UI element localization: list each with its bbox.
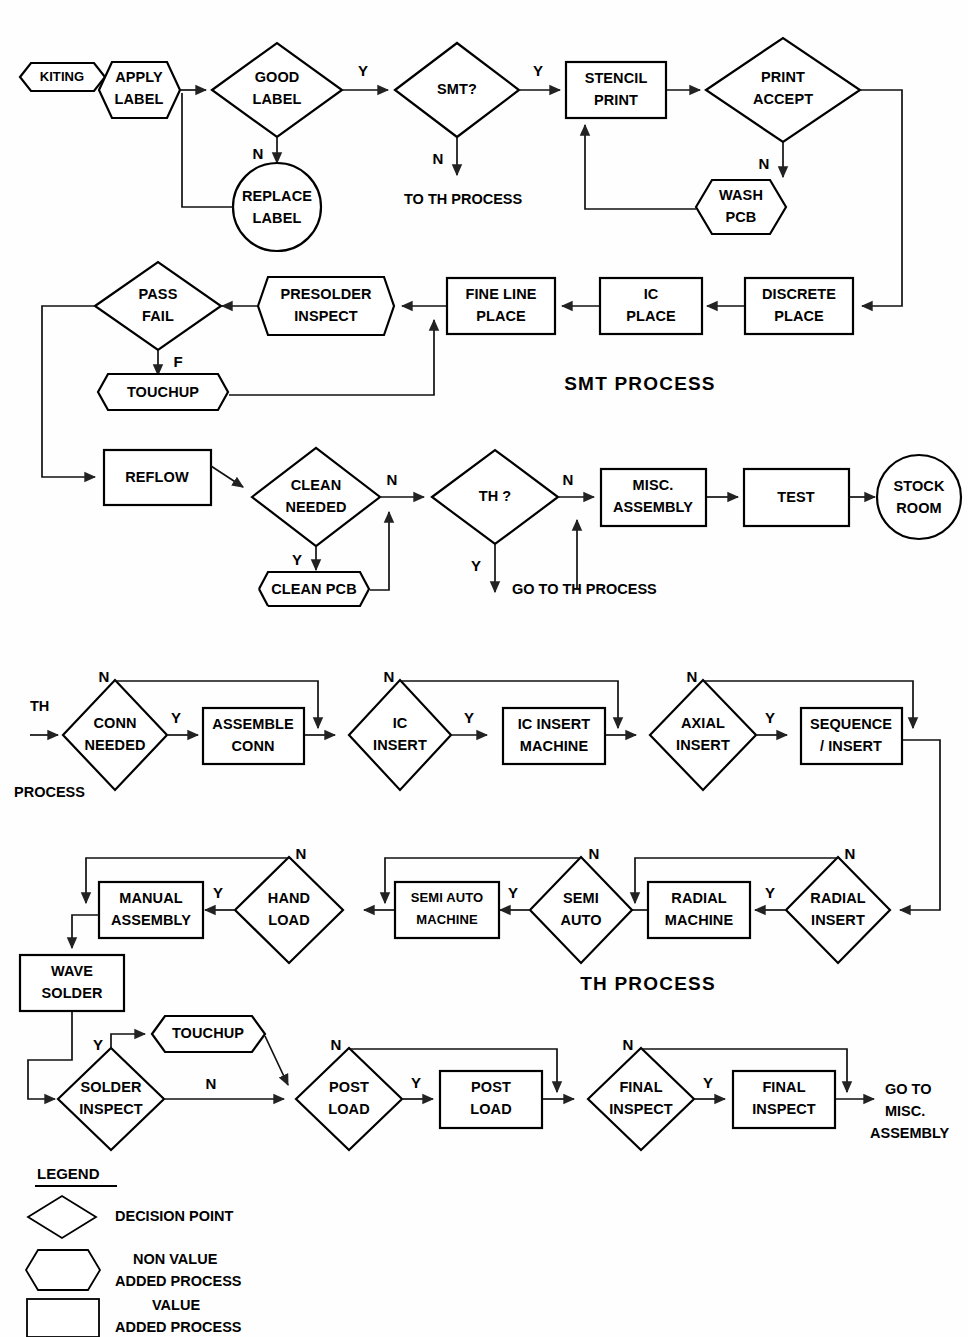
node-solder-inspect-line1: SOLDER <box>80 1079 141 1095</box>
branch-label-semi-auto-n: N <box>589 845 600 862</box>
branch-label-final-inspect-n: N <box>623 1036 634 1053</box>
node-assemble-conn-line2: CONN <box>231 738 274 754</box>
node-post-load-process: POST LOAD <box>440 1071 542 1128</box>
flowchart-canvas: KITING APPLY LABEL GOOD LABEL N REPLACE … <box>0 0 968 1337</box>
node-replace-label-line1: REPLACE <box>242 188 312 204</box>
node-final-inspect-decision-line2: INSPECT <box>609 1101 673 1117</box>
node-clean-pcb-label: CLEAN PCB <box>271 581 357 597</box>
node-wave-solder-line1: WAVE <box>51 963 93 979</box>
legend-item-0-line1: DECISION POINT <box>115 1208 234 1224</box>
branch-label-passfail-f: F <box>173 353 182 370</box>
node-post-load-decision-line2: LOAD <box>328 1101 369 1117</box>
branch-label-smt-y: Y <box>533 62 543 79</box>
node-pass-fail-line2: FAIL <box>142 308 174 324</box>
note-to-th-process: TO TH PROCESS <box>404 191 522 207</box>
branch-label-clean-needed-y: Y <box>292 551 302 568</box>
node-kiting: KITING <box>20 63 105 91</box>
node-smt-question-label: SMT? <box>437 81 477 97</box>
branch-label-smt-n: N <box>433 150 444 167</box>
node-ic-insert-machine: IC INSERT MACHINE <box>503 708 605 764</box>
branch-label-ic-insert-y: Y <box>464 709 474 726</box>
node-radial-machine-line2: MACHINE <box>665 912 734 928</box>
branch-label-radial-insert-n: N <box>845 845 856 862</box>
node-stock-room-line1: STOCK <box>894 478 945 494</box>
branch-label-final-inspect-y: Y <box>703 1074 713 1091</box>
node-stock-room-line2: ROOM <box>896 500 942 516</box>
node-ic-place-line1: IC <box>644 286 659 302</box>
node-misc-assembly-line1: MISC. <box>633 477 674 493</box>
branch-label-conn-needed-n: N <box>99 668 110 685</box>
legend-item-2-line2: ADDED PROCESS <box>115 1319 242 1335</box>
node-final-inspect-decision-line1: FINAL <box>619 1079 662 1095</box>
node-discrete-place-line2: PLACE <box>774 308 824 324</box>
th-exit-label-line1: GO TO <box>885 1081 931 1097</box>
node-post-load-process-line1: POST <box>471 1079 511 1095</box>
node-test: TEST <box>744 469 849 526</box>
branch-label-good-y: Y <box>358 62 368 79</box>
node-assemble-conn: ASSEMBLE CONN <box>203 708 304 764</box>
node-conn-needed-line2: NEEDED <box>84 737 145 753</box>
legend-item-1-line2: ADDED PROCESS <box>115 1273 242 1289</box>
node-sequence-insert-line2: / INSERT <box>820 738 882 754</box>
branch-label-post-load-n: N <box>331 1036 342 1053</box>
node-hand-load-line1: HAND <box>268 890 310 906</box>
node-solder-inspect-line2: INSPECT <box>79 1101 143 1117</box>
node-stencil-print-line1: STENCIL <box>585 70 648 86</box>
node-stencil-print: STENCIL PRINT <box>566 62 666 118</box>
node-conn-needed-line1: CONN <box>93 715 136 731</box>
branch-label-post-load-y: Y <box>411 1074 421 1091</box>
node-fine-line-place-line2: PLACE <box>476 308 526 324</box>
node-radial-insert-line1: RADIAL <box>810 890 865 906</box>
node-fine-line-place: FINE LINE PLACE <box>447 278 555 334</box>
node-presolder-inspect-line2: INSPECT <box>294 308 358 324</box>
legend-item-1-line1: NON VALUE <box>133 1251 218 1267</box>
node-fine-line-place-line1: FINE LINE <box>466 286 537 302</box>
th-exit-label-line2: MISC. <box>885 1103 925 1119</box>
node-discrete-place-line1: DISCRETE <box>762 286 836 302</box>
node-pass-fail-line1: PASS <box>139 286 178 302</box>
node-post-load-decision-line1: POST <box>329 1079 369 1095</box>
note-go-to-th-process: GO TO TH PROCESS <box>512 581 657 597</box>
node-semi-auto-machine: SEMI AUTO MACHINE <box>395 882 499 938</box>
node-replace-label-line2: LABEL <box>253 210 302 226</box>
node-th-question-label: TH ? <box>479 488 512 504</box>
branch-label-clean-needed-n: N <box>387 471 398 488</box>
flowchart-page: KITING APPLY LABEL GOOD LABEL N REPLACE … <box>0 0 968 1337</box>
node-reflow: REFLOW <box>104 450 211 505</box>
node-axial-insert-line1: AXIAL <box>681 715 725 731</box>
node-manual-assembly: MANUAL ASSEMBLY <box>99 882 203 938</box>
node-semi-auto-machine-line2: MACHINE <box>416 912 478 927</box>
node-clean-pcb: CLEAN PCB <box>259 572 369 606</box>
node-hand-load-line2: LOAD <box>268 912 309 928</box>
node-apply-label: APPLY LABEL <box>99 62 180 118</box>
node-semi-auto-line2: AUTO <box>560 912 601 928</box>
node-wash-pcb: WASH PCB <box>696 180 786 234</box>
node-touchup-th: TOUCHUP <box>152 1016 265 1052</box>
legend-title: LEGEND <box>37 1165 100 1182</box>
legend-shape-hexagon <box>26 1250 100 1290</box>
branch-label-radial-insert-y: Y <box>765 884 775 901</box>
node-presolder-inspect: PRESOLDER INSPECT <box>258 277 394 335</box>
node-discrete-place: DISCRETE PLACE <box>745 278 853 334</box>
node-assemble-conn-line1: ASSEMBLE <box>212 716 294 732</box>
node-final-inspect-process: FINAL INSPECT <box>733 1071 835 1128</box>
node-presolder-inspect-line1: PRESOLDER <box>280 286 372 302</box>
node-good-label-line1: GOOD <box>255 69 300 85</box>
node-misc-assembly: MISC. ASSEMBLY <box>601 469 706 526</box>
node-sequence-insert: SEQUENCE / INSERT <box>801 708 902 764</box>
node-manual-assembly-line2: ASSEMBLY <box>111 912 191 928</box>
node-stencil-print-line2: PRINT <box>594 92 638 108</box>
node-final-inspect-process-line1: FINAL <box>762 1079 805 1095</box>
th-entry-label-line1: TH <box>30 698 49 714</box>
branch-label-solder-inspect-n: N <box>206 1075 217 1092</box>
node-radial-insert-line2: INSERT <box>811 912 865 928</box>
th-exit-label-line3: ASSEMBLY <box>870 1125 950 1141</box>
node-reflow-label: REFLOW <box>125 469 189 485</box>
node-touchup-smt: TOUCHUP <box>98 374 228 410</box>
node-print-accept-line2: ACCEPT <box>753 91 813 107</box>
branch-label-hand-load-y: Y <box>213 884 223 901</box>
node-final-inspect-process-line2: INSPECT <box>752 1101 816 1117</box>
node-radial-machine-line1: RADIAL <box>671 890 726 906</box>
node-test-label: TEST <box>777 489 814 505</box>
node-semi-auto-line1: SEMI <box>563 890 599 906</box>
